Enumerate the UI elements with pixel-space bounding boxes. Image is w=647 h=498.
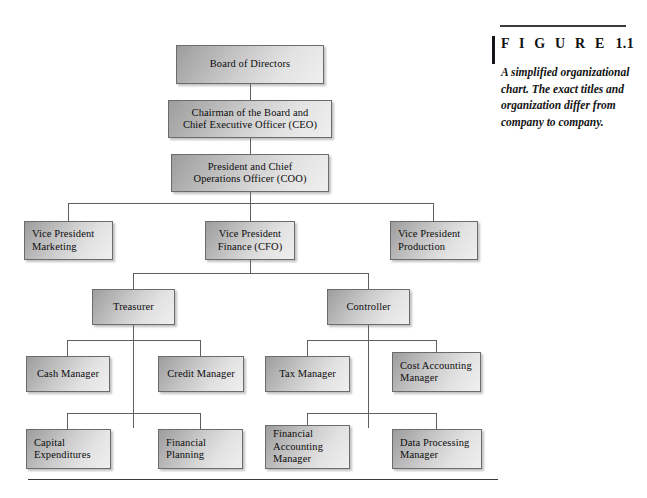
connector-bus-to-treasurer xyxy=(133,273,134,289)
connector-vp-finance-stem xyxy=(250,260,251,273)
node-label: Cost Accounting Manager xyxy=(393,360,476,385)
figure-caption: A simplified organizational chart. The e… xyxy=(501,64,637,130)
node-vp-marketing[interactable]: Vice President Marketing xyxy=(24,221,113,260)
connector-bus-to-vp-production xyxy=(433,203,434,221)
node-vp-production[interactable]: Vice President Production xyxy=(390,221,478,260)
node-capital-expenditures[interactable]: Capital Expenditures xyxy=(26,429,111,469)
connector-board-to-chairman xyxy=(250,84,251,100)
node-board-of-directors[interactable]: Board of Directors xyxy=(176,45,324,84)
node-financial-accounting-manager[interactable]: Financial Accounting Manager xyxy=(265,425,350,469)
node-label: Data Processing Manager xyxy=(393,437,473,462)
node-label: President and Chief Operations Officer (… xyxy=(189,161,310,186)
connector-treasurer-controller-bus xyxy=(133,273,368,274)
node-cost-accounting-manager[interactable]: Cost Accounting Manager xyxy=(392,352,481,392)
figure-canvas: F I G U R E 1.1 A simplified organizatio… xyxy=(0,0,647,498)
node-controller[interactable]: Controller xyxy=(327,289,410,325)
connector-treasurer-row1-bus xyxy=(67,340,200,341)
node-tax-manager[interactable]: Tax Manager xyxy=(265,356,350,392)
connector-controller-row2-bus xyxy=(307,413,436,414)
node-credit-manager[interactable]: Credit Manager xyxy=(158,356,244,392)
connector-to-data-processing-manager xyxy=(436,413,437,429)
connector-to-financial-planning xyxy=(200,413,201,429)
caption-top-rule xyxy=(500,25,626,27)
connector-controller-row1-bus xyxy=(307,340,436,341)
figure-label-word: F I G U R E xyxy=(501,36,608,51)
figure-bottom-rule xyxy=(28,479,498,480)
connector-to-capital-expenditures xyxy=(67,413,68,429)
connector-bus-to-controller xyxy=(368,273,369,289)
figure-number: 1.1 xyxy=(615,36,634,51)
node-label: Treasurer xyxy=(109,301,158,314)
connector-chairman-to-president xyxy=(250,138,251,154)
connector-to-credit-manager xyxy=(200,340,201,356)
node-label: Vice President Finance (CFO) xyxy=(214,228,287,253)
node-label: Cash Manager xyxy=(33,368,103,381)
connector-to-tax-manager xyxy=(307,340,308,356)
node-label: Vice President Production xyxy=(391,228,464,253)
node-chairman-ceo[interactable]: Chairman of the Board and Chief Executiv… xyxy=(168,100,332,138)
node-label: Vice President Marketing xyxy=(25,228,98,253)
figure-label: F I G U R E 1.1 xyxy=(501,36,641,52)
node-label: Board of Directors xyxy=(206,58,295,71)
node-cash-manager[interactable]: Cash Manager xyxy=(26,356,110,392)
node-label: Tax Manager xyxy=(275,368,340,381)
connector-treasurer-row2-bus xyxy=(67,413,200,414)
node-label: Credit Manager xyxy=(163,368,239,381)
node-treasurer[interactable]: Treasurer xyxy=(92,289,175,325)
caption-accent-bar xyxy=(492,36,495,64)
node-label: Chairman of the Board and Chief Executiv… xyxy=(179,107,321,132)
node-label: Financial Planning xyxy=(159,437,210,462)
connector-bus-to-vp-finance xyxy=(250,203,251,221)
node-label: Financial Accounting Manager xyxy=(266,428,327,466)
connector-to-cash-manager xyxy=(67,340,68,356)
node-vp-finance[interactable]: Vice President Finance (CFO) xyxy=(205,221,295,260)
node-label: Controller xyxy=(342,301,394,314)
node-data-processing-manager[interactable]: Data Processing Manager xyxy=(392,429,482,469)
connector-president-stem xyxy=(250,192,251,203)
node-label: Capital Expenditures xyxy=(27,437,95,462)
node-financial-planning[interactable]: Financial Planning xyxy=(158,429,243,469)
node-president-coo[interactable]: President and Chief Operations Officer (… xyxy=(171,154,329,192)
connector-bus-to-vp-marketing xyxy=(68,203,69,221)
